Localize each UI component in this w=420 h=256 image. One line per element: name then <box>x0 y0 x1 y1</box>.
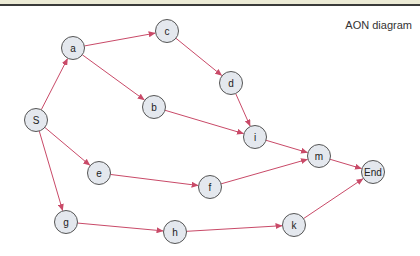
node-g: g <box>55 211 78 234</box>
edge-d-to-i <box>236 94 250 127</box>
node-f: f <box>199 176 222 199</box>
node-k: k <box>283 214 306 237</box>
edge-b-to-i <box>165 110 243 133</box>
node-label: c <box>165 26 170 37</box>
edge-i-to-m <box>266 140 307 152</box>
aon-network-graph: SabcdefghikmEnd <box>0 0 420 256</box>
node-label: a <box>70 43 76 54</box>
edge-S-to-a <box>41 59 67 110</box>
node-S: S <box>25 109 48 132</box>
node-label: f <box>209 182 212 193</box>
edge-k-to-End <box>304 179 363 219</box>
node-label: h <box>172 227 178 238</box>
node-d: d <box>220 72 243 95</box>
edge-a-to-b <box>82 55 144 100</box>
edge-c-to-d <box>176 38 222 75</box>
edge-m-to-End <box>330 159 361 168</box>
node-e: e <box>88 162 111 185</box>
node-label: m <box>315 151 323 162</box>
node-label: d <box>228 78 234 89</box>
edge-a-to-c <box>84 33 155 46</box>
nodes-layer: SabcdefghikmEnd <box>25 20 385 244</box>
node-label: e <box>96 168 102 179</box>
node-b: b <box>143 96 166 119</box>
edge-S-to-g <box>39 131 62 210</box>
edge-g-to-h <box>77 223 163 231</box>
node-label: i <box>254 132 256 143</box>
edge-S-to-e <box>45 127 90 165</box>
node-label: g <box>63 217 69 228</box>
node-label: End <box>364 167 382 178</box>
node-label: S <box>33 115 40 126</box>
node-h: h <box>164 221 187 244</box>
node-m: m <box>308 145 331 168</box>
edge-e-to-f <box>110 174 198 185</box>
node-label: b <box>151 102 157 113</box>
node-a: a <box>62 37 85 60</box>
node-End: End <box>362 161 385 184</box>
edge-f-to-m <box>221 159 307 184</box>
node-i: i <box>244 126 267 149</box>
edges-layer <box>39 33 363 231</box>
node-c: c <box>156 20 179 43</box>
edge-h-to-k <box>186 226 282 232</box>
